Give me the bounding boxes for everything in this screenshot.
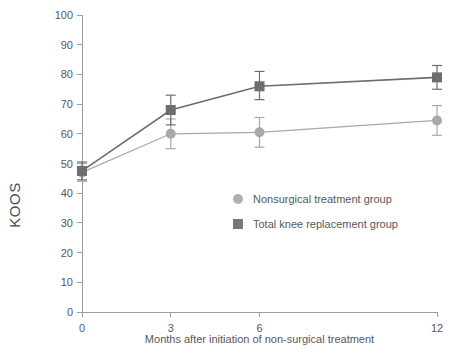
series-nonsurgical: [77, 106, 442, 182]
data-point-circle: [166, 129, 176, 139]
x-axis-title: Months after initiation of non-surgical …: [145, 333, 374, 345]
koos-line-chart: 010203040506070809010003612Months after …: [0, 0, 451, 350]
y-tick-label: 40: [61, 187, 73, 199]
legend-marker-square-icon: [233, 219, 243, 229]
y-tick-label: 20: [61, 247, 73, 259]
data-point-square: [255, 81, 265, 91]
y-tick-label: 0: [67, 306, 73, 318]
data-point-square: [77, 166, 87, 176]
y-tick-label: 100: [55, 9, 73, 21]
x-tick-label: 12: [431, 322, 443, 334]
legend-label-nonsurgical: Nonsurgical treatment group: [253, 193, 392, 205]
legend-label-tkr: Total knee replacement group: [253, 218, 398, 230]
legend-marker-circle-icon: [233, 194, 243, 204]
data-point-circle: [255, 127, 265, 137]
data-point-square: [432, 72, 442, 82]
chart-container: 010203040506070809010003612Months after …: [0, 0, 451, 350]
y-tick-label: 70: [61, 98, 73, 110]
y-tick-label: 50: [61, 158, 73, 170]
y-tick-label: 30: [61, 217, 73, 229]
data-point-square: [166, 105, 176, 115]
data-point-circle: [432, 115, 442, 125]
y-axis-title: KOOS: [6, 182, 23, 227]
legend: Nonsurgical treatment groupTotal knee re…: [233, 193, 398, 230]
y-tick-label: 60: [61, 128, 73, 140]
x-tick-label: 0: [79, 322, 85, 334]
y-tick-label: 90: [61, 39, 73, 51]
y-tick-label: 10: [61, 276, 73, 288]
y-tick-label: 80: [61, 68, 73, 80]
